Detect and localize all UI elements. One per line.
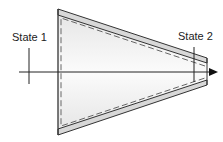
state-1-label: State 1 xyxy=(12,32,47,43)
axis-arrowhead xyxy=(209,68,218,76)
nozzle-diagram xyxy=(0,0,223,142)
state-2-label: State 2 xyxy=(178,31,213,42)
